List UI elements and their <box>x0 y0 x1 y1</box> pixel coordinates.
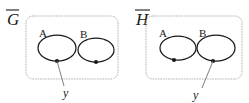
ellipse-a-label: A <box>39 27 47 39</box>
figure-canvas: G A B y H <box>0 0 249 103</box>
vertex-dot-b <box>94 60 98 64</box>
panel-label-g: G <box>6 10 19 29</box>
ellipse-a-label: A <box>159 27 167 39</box>
panel-label-g-text: G <box>7 10 19 29</box>
vertex-dot-a <box>172 58 176 62</box>
vertex-label-y-left: y <box>62 86 69 100</box>
background <box>0 0 249 103</box>
two-panel-graph-diagram: G A B y H <box>0 0 249 103</box>
ellipse-b-label: B <box>199 27 206 39</box>
panel-label-h-text: H <box>135 10 150 29</box>
vertex-label-y-right: y <box>192 88 199 102</box>
ellipse-b-label: B <box>80 28 87 40</box>
panel-label-h: H <box>135 10 150 29</box>
